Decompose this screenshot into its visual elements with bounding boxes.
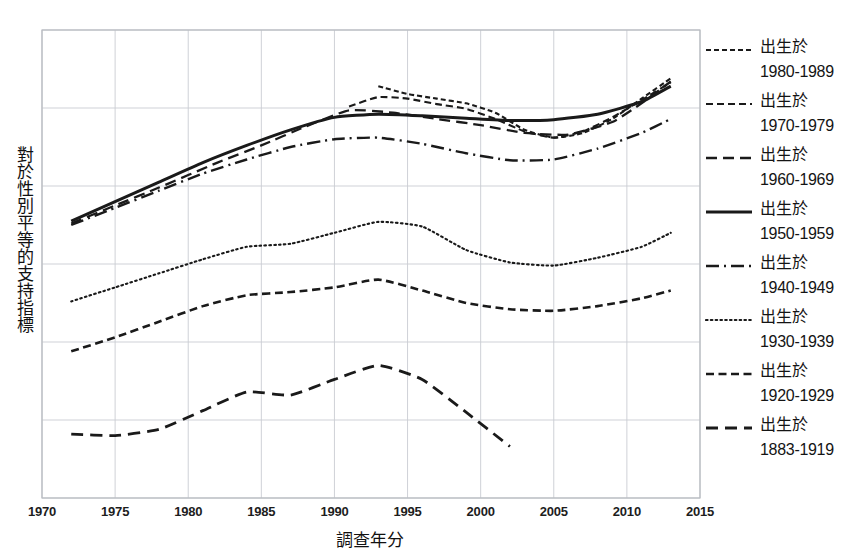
x-tick-label: 1980 bbox=[158, 504, 218, 519]
legend-line-sample-1940-1949 bbox=[705, 259, 753, 273]
x-axis-title: 調查年分 bbox=[240, 526, 500, 551]
y-axis-title: 對於性別平等的支持指標 bbox=[2, 146, 32, 333]
legend-entry-1980-1989[interactable]: 出生於1980-1989 bbox=[705, 36, 861, 90]
chart-container: 1970197519801985199019952000200520102015… bbox=[0, 0, 861, 558]
legend-line-sample-1920-1929 bbox=[705, 367, 753, 381]
legend-label-prefix: 出生於 bbox=[760, 362, 808, 379]
legend-line-sample-1980-1989 bbox=[705, 43, 753, 57]
legend-label-range: 1930-1939 bbox=[760, 329, 834, 354]
legend-label-prefix: 出生於 bbox=[760, 200, 808, 217]
legend-label-1980-1989: 出生於1980-1989 bbox=[760, 34, 834, 84]
legend-line-sample-1950-1959 bbox=[705, 205, 753, 219]
x-tick-label: 1985 bbox=[231, 504, 291, 519]
chart-legend: 出生於1980-1989出生於1970-1979出生於1960-1969出生於1… bbox=[705, 36, 861, 468]
legend-label-range: 1980-1989 bbox=[760, 59, 834, 84]
legend-entry-1920-1929[interactable]: 出生於1920-1929 bbox=[705, 360, 861, 414]
legend-label-prefix: 出生於 bbox=[760, 308, 808, 325]
x-tick-label: 1995 bbox=[378, 504, 438, 519]
x-tick-label: 2005 bbox=[524, 504, 584, 519]
x-tick-label: 2015 bbox=[670, 504, 730, 519]
legend-line-sample-1930-1939 bbox=[705, 313, 753, 327]
legend-label-1950-1959: 出生於1950-1959 bbox=[760, 196, 834, 246]
series-line-1930-1939 bbox=[71, 222, 671, 302]
x-tick-label: 1990 bbox=[304, 504, 364, 519]
legend-entry-1950-1959[interactable]: 出生於1950-1959 bbox=[705, 198, 861, 252]
legend-entry-1930-1939[interactable]: 出生於1930-1939 bbox=[705, 306, 861, 360]
legend-label-range: 1920-1929 bbox=[760, 383, 834, 408]
x-tick-label: 1975 bbox=[85, 504, 145, 519]
legend-line-sample-1960-1969 bbox=[705, 151, 753, 165]
legend-label-prefix: 出生於 bbox=[760, 146, 808, 163]
legend-label-1930-1939: 出生於1930-1939 bbox=[760, 304, 834, 354]
x-tick-label: 2010 bbox=[597, 504, 657, 519]
legend-entry-1940-1949[interactable]: 出生於1940-1949 bbox=[705, 252, 861, 306]
legend-label-range: 1970-1979 bbox=[760, 113, 834, 138]
legend-line-sample-1883-1919 bbox=[705, 421, 753, 435]
legend-entry-1970-1979[interactable]: 出生於1970-1979 bbox=[705, 90, 861, 144]
x-tick-label: 2000 bbox=[451, 504, 511, 519]
legend-label-range: 1950-1959 bbox=[760, 221, 834, 246]
legend-entry-1960-1969[interactable]: 出生於1960-1969 bbox=[705, 144, 861, 198]
legend-label-1960-1969: 出生於1960-1969 bbox=[760, 142, 834, 192]
legend-label-1883-1919: 出生於1883-1919 bbox=[760, 412, 834, 462]
legend-line-sample-1970-1979 bbox=[705, 97, 753, 111]
legend-label-range: 1960-1969 bbox=[760, 167, 834, 192]
series-line-1940-1949 bbox=[71, 119, 671, 225]
legend-label-range: 1940-1949 bbox=[760, 275, 834, 300]
legend-label-1970-1979: 出生於1970-1979 bbox=[760, 88, 834, 138]
legend-entry-1883-1919[interactable]: 出生於1883-1919 bbox=[705, 414, 861, 468]
legend-label-prefix: 出生於 bbox=[760, 92, 808, 109]
legend-label-1920-1929: 出生於1920-1929 bbox=[760, 358, 834, 408]
x-tick-label: 1970 bbox=[12, 504, 72, 519]
series-group bbox=[71, 78, 671, 446]
legend-label-prefix: 出生於 bbox=[760, 38, 808, 55]
grid-lines bbox=[42, 30, 700, 498]
legend-label-1940-1949: 出生於1940-1949 bbox=[760, 250, 834, 300]
legend-label-range: 1883-1919 bbox=[760, 437, 834, 462]
series-line-1883-1919 bbox=[71, 365, 510, 446]
legend-label-prefix: 出生於 bbox=[760, 254, 808, 271]
legend-label-prefix: 出生於 bbox=[760, 416, 808, 433]
series-line-1920-1929 bbox=[71, 280, 671, 352]
